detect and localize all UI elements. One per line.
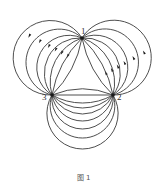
node-1 [80,36,84,40]
field-line [52,95,113,103]
node-label-2: 2 [117,92,122,102]
field-line-diagram: 123 [0,0,167,188]
arrow-icon [143,50,146,54]
arrow-icon [132,56,135,60]
field-line [52,89,113,95]
arrow-icon [48,44,51,48]
field-line [50,38,82,95]
node-3 [50,93,54,97]
node-label-3: 3 [42,92,47,102]
node-label-1: 1 [81,26,86,36]
field-line [52,95,113,114]
arrow-icon [124,61,127,65]
arrow-icon [39,39,42,43]
node-2 [111,93,115,97]
figure-caption: 图 1 [0,172,167,182]
field-line [82,38,115,95]
arrow-icon [28,34,31,38]
